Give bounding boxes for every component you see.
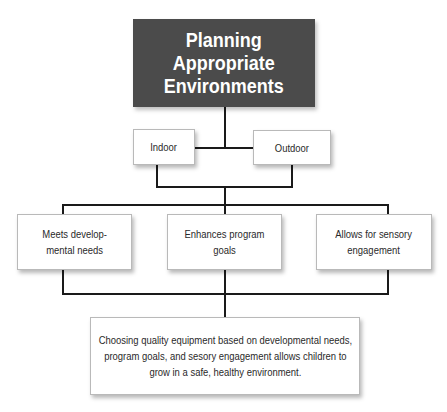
sensory-engagement-line-1: Allows for sensory [336,226,413,242]
developmental-needs-box: Meets develop- mental needs [17,214,132,270]
connector-title-down [224,107,226,148]
program-goals-line-2: goals [185,242,265,258]
outdoor-box: Outdoor [253,130,331,165]
title-line-3: Environments [164,75,284,98]
connector-join-down [224,186,226,205]
sensory-engagement-line-2: engagement [336,242,413,258]
outdoor-label: Outdoor [275,140,309,156]
indoor-label: Indoor [151,139,178,155]
conclusion-line-2: program goals, and sesory engagement all… [98,348,351,364]
title-box: Planning Appropriate Environments [133,19,315,107]
program-goals-line-1: Enhances program [185,226,265,242]
indoor-box: Indoor [133,129,195,165]
connector-outdoor-down [291,165,293,187]
connector-bottom-rail [62,293,389,295]
conclusion-line-1: Choosing quality equipment based on deve… [98,332,351,348]
developmental-needs-line-1: Meets develop- [42,226,107,242]
conclusion-line-3: grow in a safe, healthy environment. [98,364,351,380]
title-line-2: Appropriate [164,52,284,75]
sensory-engagement-box: Allows for sensory engagement [316,214,432,270]
developmental-needs-line-2: mental needs [42,242,107,258]
title-line-1: Planning [164,29,284,52]
connector-indoor-outdoor [195,147,253,149]
connector-indoor-down [156,165,158,187]
conclusion-box: Choosing quality equipment based on deve… [90,317,360,395]
program-goals-box: Enhances program goals [167,214,282,270]
